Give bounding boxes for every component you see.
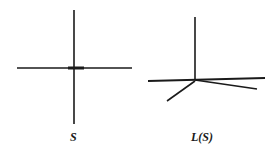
- right-line-1: [148, 78, 265, 81]
- label-s: S: [70, 131, 77, 143]
- figure-s: [17, 10, 132, 124]
- right-line-2: [195, 80, 257, 89]
- right-line-3: [167, 81, 195, 101]
- label-link-s: L(S): [191, 131, 213, 143]
- figure-link-s: [148, 17, 265, 101]
- diagram-canvas: [0, 0, 277, 156]
